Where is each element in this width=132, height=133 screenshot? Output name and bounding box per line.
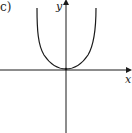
y-axis-label: y — [56, 1, 62, 12]
x-axis-label: x — [125, 74, 131, 85]
origin-point — [65, 68, 68, 71]
graph-canvas — [0, 0, 132, 133]
panel-label: c) — [0, 1, 11, 13]
